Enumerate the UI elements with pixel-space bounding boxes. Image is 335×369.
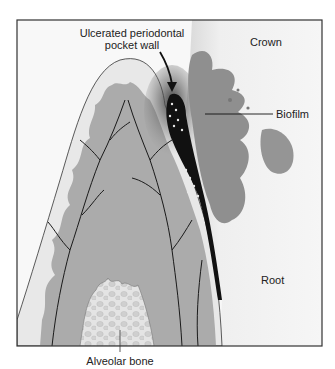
label-pocket-wall-line2: pocket wall: [72, 39, 192, 51]
label-alveolar-bone: Alveolar bone: [80, 355, 160, 367]
label-root: Root: [261, 274, 284, 286]
periodontal-diagram: Ulcerated periodontal pocket wall Crown …: [0, 0, 335, 369]
label-pocket-wall-line1: Ulcerated periodontal: [72, 27, 192, 39]
label-pocket-wall: Ulcerated periodontal pocket wall: [72, 27, 192, 51]
diagram-illustration: [0, 0, 335, 369]
label-crown: Crown: [250, 36, 282, 48]
label-biofilm: Biofilm: [276, 108, 309, 120]
